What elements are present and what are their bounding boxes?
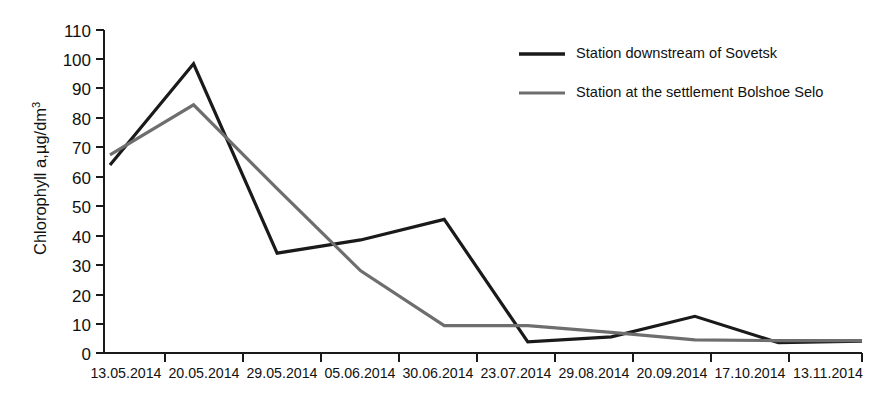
y-tick-label: 40	[72, 228, 91, 247]
y-tick-label: 60	[72, 169, 91, 188]
series-layer	[110, 64, 862, 343]
series-line	[110, 105, 862, 341]
legend-label: Station at the settlement Bolshoe Selo	[576, 84, 823, 100]
y-axis-label: Chlorophyll a,µg/dm3	[30, 102, 49, 255]
x-tick-label: 20.05.2014	[168, 365, 239, 381]
x-tick-label: 13.11.2014	[793, 365, 863, 381]
y-tick-label: 0	[82, 345, 91, 364]
x-tick-marks	[165, 353, 862, 362]
svg-text:Chlorophyll a,µg/dm3: Chlorophyll a,µg/dm3	[30, 102, 49, 255]
legend-item-sovetsk[interactable]: Station downstream of Sovetsk	[519, 45, 778, 61]
y-tick-label: 70	[72, 139, 91, 158]
chart-canvas: Chlorophyll a,µg/dm3 110	[0, 0, 885, 402]
y-tick-label: 90	[72, 80, 91, 99]
legend: Station downstream of Sovetsk Station at…	[519, 45, 823, 100]
chlorophyll-line-chart: Chlorophyll a,µg/dm3 110	[0, 0, 885, 402]
x-tick-label: 29.08.2014	[558, 365, 629, 381]
legend-item-bolshoe-selo[interactable]: Station at the settlement Bolshoe Selo	[519, 84, 823, 100]
series-line	[110, 64, 862, 343]
y-tick-label: 110	[64, 22, 91, 41]
x-tick-labels: 13.05.2014 20.05.2014 29.05.2014 05.06.2…	[90, 365, 863, 381]
y-axis-label-text: Chlorophyll a,µg/dm	[31, 108, 49, 255]
y-tick-label: 50	[72, 198, 91, 217]
y-tick-label: 100	[63, 51, 91, 70]
y-tick-marks	[96, 30, 104, 353]
x-tick-label: 30.06.2014	[402, 365, 473, 381]
x-tick-label: 20.09.2014	[636, 365, 707, 381]
x-tick-label: 23.07.2014	[480, 365, 551, 381]
y-tick-label: 80	[72, 110, 91, 129]
x-tick-label: 29.05.2014	[246, 365, 317, 381]
y-tick-labels: 110 100 90 80 70 60 50 40 30 20 10 0	[63, 22, 91, 364]
y-tick-label: 10	[72, 316, 91, 335]
y-axis-label-superscript: 3	[30, 102, 42, 108]
y-axis: 110 100 90 80 70 60 50 40 30 20 10 0	[63, 22, 104, 364]
x-axis: 13.05.2014 20.05.2014 29.05.2014 05.06.2…	[90, 353, 863, 381]
y-tick-label: 30	[72, 257, 91, 276]
y-tick-label: 20	[72, 287, 91, 306]
x-tick-label: 05.06.2014	[324, 365, 395, 381]
legend-label: Station downstream of Sovetsk	[576, 45, 778, 61]
x-tick-label: 17.10.2014	[714, 365, 785, 381]
x-tick-label: 13.05.2014	[90, 365, 161, 381]
